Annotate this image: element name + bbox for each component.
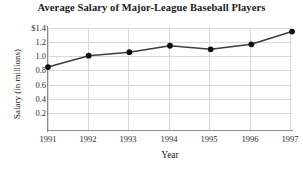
series-line — [48, 32, 292, 68]
series-markers — [45, 29, 295, 70]
data-point — [126, 49, 132, 55]
data-point — [86, 53, 92, 59]
data-point — [167, 43, 173, 49]
data-point — [208, 46, 214, 52]
data-point — [45, 64, 51, 70]
data-series — [0, 0, 303, 173]
data-point — [248, 41, 254, 47]
line-chart: Average Salary of Major-League Baseball … — [0, 0, 303, 173]
data-point — [289, 29, 295, 35]
